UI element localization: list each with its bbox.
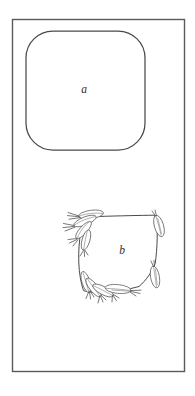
panel-label-b: b — [119, 244, 125, 256]
figure-root: a — [0, 0, 195, 396]
panel-label-a: a — [81, 83, 87, 95]
figure-canvas: a — [0, 0, 195, 396]
outer-frame — [13, 20, 185, 372]
